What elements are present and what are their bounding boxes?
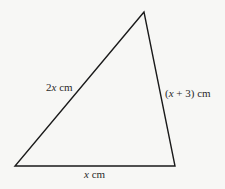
triangle-diagram: 2x cm (x + 3) cm x cm <box>0 0 225 189</box>
triangle-shape <box>15 12 175 166</box>
base-unit: cm <box>89 168 105 180</box>
right-side-rest: + 3) cm <box>174 87 211 99</box>
right-side-label: (x + 3) cm <box>165 88 211 99</box>
base-label: x cm <box>84 169 105 180</box>
left-side-unit: cm <box>56 81 72 93</box>
left-side-label: 2x cm <box>46 82 73 93</box>
